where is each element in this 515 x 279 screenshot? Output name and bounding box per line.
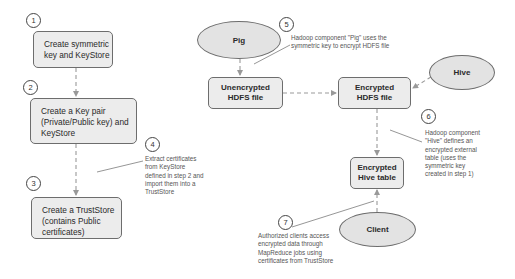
encrypted-hive-table-box: Encrypted Hive table [350, 157, 404, 189]
encrypted-hdfs-file-box: Encrypted HDFS file [338, 77, 411, 109]
note-step-5: Hadoop component "Pig" uses the symmetri… [291, 34, 389, 51]
step-2-marker: 2 [23, 80, 38, 95]
step-1-marker: 1 [26, 13, 41, 28]
step-6-marker: 6 [421, 109, 436, 124]
client-actor: Client [339, 212, 416, 247]
create-key-pair-box: Create a Key pair (Private/Public key) a… [30, 98, 137, 144]
leader-note6 [390, 130, 422, 142]
note-step-6: Hadoop component "Hive" defines an encry… [425, 129, 480, 179]
create-symmetric-key-box: Create symmetric key and KeyStore [33, 31, 113, 68]
step-7-marker: 7 [278, 215, 293, 230]
note-step-4: Extract certificates from KeyStore defin… [145, 155, 203, 196]
hive-component: Hive [429, 55, 495, 90]
step-5-marker: 5 [279, 17, 294, 32]
step-4-marker: 4 [145, 137, 160, 152]
leader-note4 [97, 161, 143, 172]
create-truststore-box: Create a TrustStore (contains Public cer… [31, 197, 122, 239]
unencrypted-hdfs-file-box: Unencrypted HDFS file [208, 77, 283, 109]
pig-component: Pig [197, 21, 281, 59]
note-step-7: Authorized clients access encrypted data… [258, 232, 333, 265]
arrow-hive-to-encrypted [413, 77, 431, 88]
step-3-marker: 3 [26, 176, 41, 191]
